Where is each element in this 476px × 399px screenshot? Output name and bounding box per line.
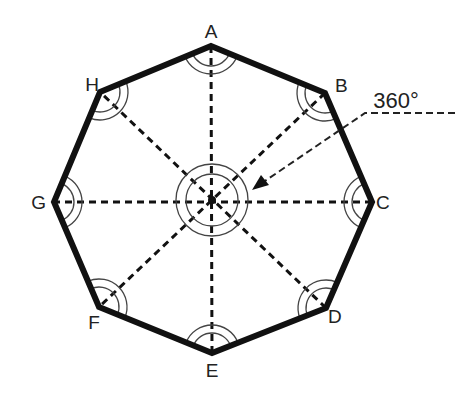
vertex-label-D: D xyxy=(328,306,342,327)
annotation-label: 360° xyxy=(373,88,419,113)
vertex-label-E: E xyxy=(206,360,219,381)
center-angle-circles xyxy=(176,164,248,236)
vertex-label-F: F xyxy=(88,312,100,333)
vertex-label-G: G xyxy=(31,192,46,213)
center-dot xyxy=(208,196,216,204)
vertex-label-H: H xyxy=(85,74,99,95)
arrow-head-icon xyxy=(252,175,269,190)
vertex-label-B: B xyxy=(335,75,348,96)
vertex-label-A: A xyxy=(205,21,218,42)
annotation-360: 360° xyxy=(252,88,455,190)
vertex-label-C: C xyxy=(376,192,390,213)
octagon-diagram: ABCDEFGH 360° xyxy=(0,0,476,399)
